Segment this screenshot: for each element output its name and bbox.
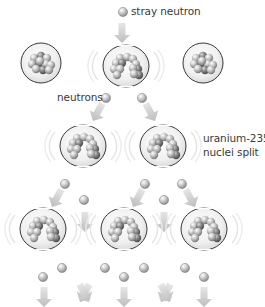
nucleus-intact-left: [21, 43, 61, 83]
nucleus-intact-right: [183, 43, 223, 83]
nuclei-split-label-line1: uranium-235: [203, 132, 265, 145]
nucleus-splitting-row3-center: [86, 208, 162, 250]
fission-chain-diagram: stray neutron neutrons uranium-235 nucle…: [0, 0, 265, 307]
nucleus-splitting-center: [88, 45, 164, 87]
nucleus-splitting-row2-left: [45, 125, 121, 167]
nucleus-splitting-row3-left: [5, 208, 81, 250]
row-2-released-neutrons: [60, 179, 186, 204]
stray-neutron-label: stray neutron: [131, 5, 201, 18]
row-3-nuclei: [5, 208, 242, 250]
row-3-arrows: [36, 281, 212, 307]
arrow-stray-to-nucleus: [114, 23, 130, 43]
neutrons-label: neutrons: [57, 91, 103, 104]
nuclei-split-label-line2: nuclei split: [203, 146, 259, 159]
row-3-released-neutrons: [38, 263, 208, 281]
row-2-nuclei: [45, 125, 201, 167]
nucleus-splitting-row2-right: [125, 125, 201, 167]
row-1-nuclei: [21, 43, 223, 87]
nucleus-splitting-row3-right: [166, 208, 242, 250]
stray-neutron: [118, 7, 127, 16]
row-1-released-neutrons: [101, 93, 146, 102]
